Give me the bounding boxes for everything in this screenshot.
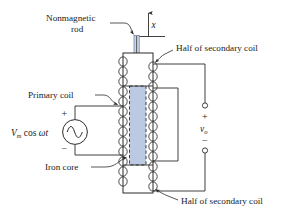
secondary-circuit xyxy=(153,64,205,191)
iron-core-label: Iron core xyxy=(45,162,78,172)
output-plus-sign: + xyxy=(202,111,208,122)
primary-coil-label: Primary coil xyxy=(28,90,74,100)
svg-text:Vm cos ωt: Vm cos ωt xyxy=(11,128,49,139)
displacement-axis-label: x xyxy=(151,20,157,30)
ac-source: + − xyxy=(62,108,88,154)
callout-nonmagnetic-rod: Nonmagnetic rod xyxy=(46,13,133,34)
output-terminal-negative xyxy=(202,148,207,153)
output-voltage-label: vo xyxy=(200,124,207,135)
output-terminal-positive xyxy=(202,103,207,108)
nonmagnetic-rod-leader xyxy=(110,23,133,34)
output-terminals: + − vo xyxy=(200,103,208,153)
secondary-bottom-label: Half of secondary coil xyxy=(181,196,263,206)
output-v-subscript: o xyxy=(204,128,207,135)
iron-core-fill xyxy=(130,86,147,165)
source-voltage-label: Vm cos ωt xyxy=(11,128,49,139)
callout-secondary-bottom: Half of secondary coil xyxy=(156,189,264,206)
secondary-top-label: Half of secondary coil xyxy=(176,43,258,53)
lvdt-figure: x xyxy=(0,0,286,214)
nonmagnetic-rod-label-line2: rod xyxy=(71,24,84,34)
callout-iron-core: Iron core xyxy=(45,157,126,172)
source-omega-t: ωt xyxy=(39,128,49,138)
primary-coil-leader xyxy=(95,95,118,105)
source-plus-sign: + xyxy=(62,108,68,119)
output-minus-sign: − xyxy=(202,135,208,146)
iron-core xyxy=(130,86,147,165)
source-cos-text: cos xyxy=(21,128,38,138)
displacement-axis-group: x xyxy=(139,13,165,37)
callout-primary-coil: Primary coil xyxy=(28,90,118,105)
secondary-top-leader xyxy=(155,50,173,62)
callout-secondary-top: Half of secondary coil xyxy=(155,43,258,62)
nonmagnetic-rod-label-line1: Nonmagnetic xyxy=(46,13,96,23)
lvdt-diagram-svg: x xyxy=(0,0,286,214)
source-minus-sign: − xyxy=(62,143,68,154)
